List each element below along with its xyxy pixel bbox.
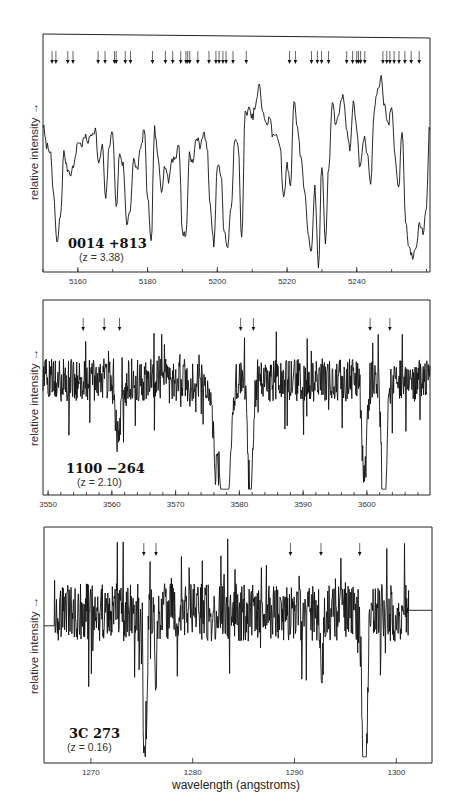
x-tick-label: 1270 (82, 768, 100, 777)
x-tick-label: 1290 (286, 768, 304, 777)
x-tick-label: 3550 (39, 500, 57, 509)
x-tick-label: 3570 (167, 500, 185, 509)
y-axis-label-top: relative intensity → (28, 103, 40, 200)
x-tick-label: 3560 (103, 500, 121, 509)
redshift-middle: (z = 2.10) (77, 476, 122, 488)
object-name-bottom: 3C 273 (69, 726, 120, 741)
x-tick-label: 3580 (230, 500, 248, 509)
redshift-top: (z = 3.38) (79, 251, 124, 263)
spectrum-line (44, 539, 432, 757)
x-tick-label: 5160 (69, 277, 87, 286)
object-name-top: 0014 +813 (68, 236, 147, 251)
x-tick-label: 3600 (358, 500, 376, 509)
x-tick-label: 5180 (139, 277, 157, 286)
spectra-figure: 51605180520052205240 3550356035703580359… (0, 0, 454, 797)
x-tick-label: 5220 (278, 277, 296, 286)
y-axis-label-middle: relative intensity → (28, 349, 40, 446)
x-tick-label: 5200 (208, 277, 226, 286)
x-tick-label: 3590 (294, 500, 312, 509)
absorption-arrows (50, 51, 421, 64)
absorption-arrows (142, 543, 361, 556)
x-tick-label: 5240 (348, 277, 366, 286)
absorption-arrows (81, 318, 391, 331)
x-tick-label: 1280 (184, 768, 202, 777)
object-name-middle: 1100 −264 (66, 461, 145, 476)
x-axis-label: wavelength (angstroms) (171, 778, 300, 792)
redshift-bottom: (z = 0.16) (67, 741, 112, 753)
x-axis: 355035603570358035903600 (39, 490, 418, 509)
x-axis: 51605180520052205240 (43, 267, 427, 286)
x-axis: 1270128012901300 (82, 758, 406, 777)
x-tick-label: 1300 (387, 768, 405, 777)
y-axis-label-bottom: relative intensity → (28, 597, 40, 694)
